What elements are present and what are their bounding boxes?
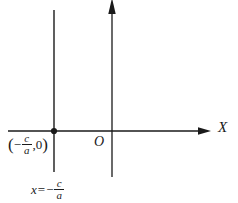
point-fraction-numerator: c <box>22 133 31 144</box>
equation-equals-sign: = <box>38 183 45 196</box>
equation-fraction: c a <box>54 178 64 201</box>
equation-fraction-numerator: c <box>55 178 64 189</box>
x-intercept-label: ( − c a ,0 ) <box>8 133 48 156</box>
x-axis-arrowhead <box>198 127 211 134</box>
point-fraction-denominator: a <box>22 145 32 156</box>
point-minus-sign: − <box>14 138 21 151</box>
y-axis <box>108 0 115 177</box>
x-intercept-dot <box>51 128 57 134</box>
asymptote-equation-label: x = − c a <box>31 178 65 201</box>
point-comma-zero: ,0 <box>33 138 43 151</box>
equation-variable: x <box>31 183 37 196</box>
math-figure: ( − c a ,0 ) O X x = − c a <box>0 0 238 203</box>
origin-label: O <box>94 135 104 149</box>
point-fraction: c a <box>22 133 32 156</box>
equation-fraction-denominator: a <box>54 190 64 201</box>
equation-minus-sign: − <box>46 183 53 196</box>
x-axis-label: X <box>218 120 227 135</box>
point-close-paren: ) <box>42 136 48 153</box>
y-axis-arrowhead <box>108 0 115 14</box>
figure-canvas <box>0 0 238 203</box>
